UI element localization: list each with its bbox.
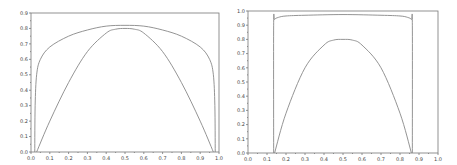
x-tick-label: 0.5 [121,155,129,161]
x-tick-label: 0.9 [415,156,423,162]
y-tick-label: 0.4 [20,87,28,93]
right-chart: 0.00.10.20.30.40.50.60.70.80.91.00.00.10… [237,8,442,162]
y-tick-label: 0.1 [237,136,245,142]
y-tick-label: 0.0 [20,149,28,155]
plot-frame [31,13,219,152]
curve-outer [35,25,215,152]
x-tick-label: 0.0 [27,155,35,161]
y-tick-label: 0.8 [20,25,28,31]
curve-inner [37,28,214,152]
x-tick-label: 0.2 [282,156,290,162]
y-tick-label: 1.0 [237,8,245,14]
y-tick-label: 0.3 [237,107,245,113]
y-tick-label: 0.9 [237,22,245,28]
left-chart: 0.00.10.20.30.40.50.60.70.80.91.00.00.10… [20,10,223,161]
x-tick-label: 0.7 [159,155,167,161]
y-tick-label: 0.0 [237,150,245,156]
plot-frame [248,11,438,153]
x-tick-label: 0.6 [140,155,148,161]
x-tick-label: 0.5 [339,156,347,162]
y-tick-label: 0.2 [20,118,28,124]
x-tick-label: 0.7 [377,156,385,162]
x-tick-label: 0.0 [244,156,252,162]
x-tick-label: 0.9 [196,155,204,161]
curve-inner [275,39,412,153]
x-tick-label: 0.4 [320,156,328,162]
x-tick-label: 0.8 [396,156,404,162]
y-tick-label: 0.8 [237,36,245,42]
y-tick-label: 0.7 [237,50,245,56]
y-tick-label: 0.5 [20,71,28,77]
curve-outer [274,14,413,153]
y-tick-label: 0.7 [20,41,28,47]
x-tick-label: 0.3 [301,156,309,162]
x-tick-label: 1.0 [434,156,442,162]
x-tick-label: 0.6 [358,156,366,162]
y-tick-label: 0.9 [20,10,28,16]
y-tick-label: 0.4 [237,93,245,99]
y-tick-label: 0.6 [20,56,28,62]
x-tick-label: 0.1 [46,155,54,161]
y-tick-label: 0.5 [237,79,245,85]
x-tick-label: 0.1 [263,156,271,162]
y-tick-label: 0.6 [237,65,245,71]
x-tick-label: 1.0 [215,155,223,161]
charts-canvas: 0.00.10.20.30.40.50.60.70.80.91.00.00.10… [0,0,457,165]
y-tick-label: 0.2 [237,121,245,127]
x-tick-label: 0.3 [83,155,91,161]
x-tick-label: 0.8 [177,155,185,161]
x-tick-label: 0.4 [102,155,110,161]
y-tick-label: 0.3 [20,102,28,108]
x-tick-label: 0.2 [65,155,73,161]
y-tick-label: 0.1 [20,133,28,139]
